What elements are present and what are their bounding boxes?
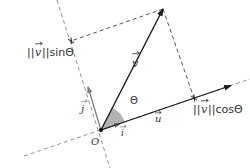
- svg-text:v: v: [132, 57, 139, 70]
- vector-projection-diagram: v u i j O Θ || v ||sinΘ || v ||cosΘ: [0, 0, 250, 168]
- svg-text:||sinΘ: ||sinΘ: [42, 46, 74, 59]
- i-label: i: [120, 125, 126, 138]
- cos-component-label: || v ||cosΘ: [193, 99, 243, 116]
- svg-text:||: ||: [193, 103, 200, 116]
- u-label: u: [155, 111, 161, 124]
- svg-text:j: j: [79, 103, 84, 114]
- v-label: v: [132, 52, 140, 71]
- svg-text:||cosΘ: ||cosΘ: [208, 103, 243, 116]
- projection-line-to-cos-foot: [163, 9, 194, 98]
- j-basis-vector: [88, 87, 101, 130]
- sin-component-label: || v ||sinΘ: [27, 42, 74, 59]
- j-label: j: [79, 100, 87, 115]
- svg-text:v: v: [35, 46, 42, 59]
- perpendicular-axis-dashed: [57, 0, 110, 168]
- sin-foot-tick: [68, 38, 74, 45]
- origin-label: O: [91, 136, 99, 147]
- svg-text:i: i: [121, 128, 124, 138]
- svg-text:u: u: [155, 113, 161, 124]
- theta-label: Θ: [130, 95, 138, 106]
- svg-text:||: ||: [27, 46, 34, 59]
- svg-text:v: v: [201, 103, 208, 116]
- origin-point: [99, 128, 103, 132]
